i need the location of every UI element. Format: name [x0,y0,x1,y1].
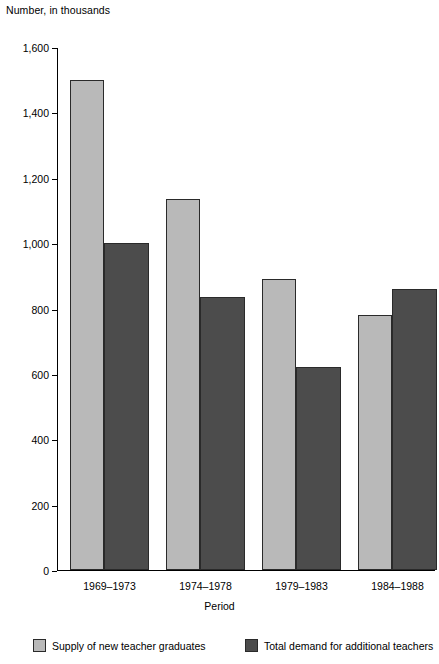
bar-chart: Number, in thousands 02004006008001,0001… [0,0,439,664]
x-tick-label: 1974–1978 [179,580,232,592]
y-tick-label: 1,000 [23,238,49,250]
y-tick-mark [52,571,57,572]
bar [200,297,245,570]
chart-legend: Supply of new teacher graduatesTotal dem… [0,639,439,661]
y-tick-mark [52,113,57,114]
y-tick-label: 1,600 [23,42,49,54]
x-tick-label: 1984–1988 [371,580,424,592]
y-tick-mark [52,506,57,507]
y-tick-mark [52,375,57,376]
y-tick-label: 800 [31,304,49,316]
y-tick-label: 1,200 [23,173,49,185]
y-tick-label: 200 [31,500,49,512]
x-axis-line [57,570,435,571]
y-tick-mark [52,179,57,180]
y-tick-label: 1,400 [23,107,49,119]
legend-item: Supply of new teacher graduates [33,639,206,652]
plot-area: 02004006008001,0001,2001,4001,600 [57,48,435,571]
y-tick-mark [52,48,57,49]
legend-label: Total demand for additional teachers [264,640,433,652]
bar [104,243,149,570]
x-tick-label: 1979–1983 [275,580,328,592]
y-tick-label: 0 [43,565,49,577]
legend-label: Supply of new teacher graduates [52,640,206,652]
y-tick-mark [52,440,57,441]
legend-swatch [245,639,258,652]
x-tick-label: 1969–1973 [83,580,136,592]
bar [296,367,341,570]
y-tick-mark [52,244,57,245]
y-tick-label: 400 [31,434,49,446]
y-tick-mark [52,310,57,311]
legend-item: Total demand for additional teachers [245,639,433,652]
bar [262,279,296,570]
bar [392,289,437,570]
legend-swatch [33,639,46,652]
x-axis-title: Period [0,600,439,612]
bar [166,199,200,570]
bar [70,80,104,570]
bars-layer [58,48,435,570]
y-axis-title: Number, in thousands [6,4,110,16]
y-tick-label: 600 [31,369,49,381]
bar [358,315,392,570]
